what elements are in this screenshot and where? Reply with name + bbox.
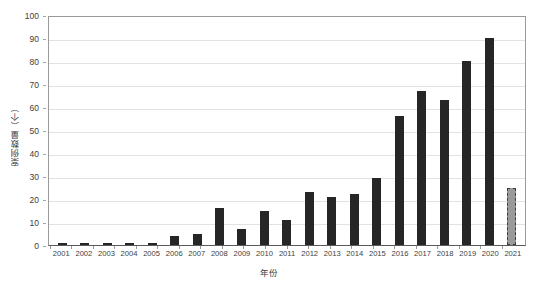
y-tick-label: 90: [30, 34, 39, 44]
x-tick-label: 2019: [456, 249, 479, 263]
bar[interactable]: [462, 61, 471, 245]
x-tick-label: 2020: [479, 249, 502, 263]
x-axis-tick-labels: 2001200220032004200520062007200820092010…: [48, 249, 526, 263]
y-tick-label: 60: [30, 103, 39, 113]
bar-slot: [298, 17, 320, 245]
x-tick-label: 2015: [366, 249, 389, 263]
bar[interactable]: [417, 91, 426, 245]
y-tick-label: 30: [30, 172, 39, 182]
x-tick-label: 2010: [253, 249, 276, 263]
y-tick-mark: [43, 85, 46, 86]
y-tick-label: 40: [30, 149, 39, 159]
y-tick-label: 0: [34, 241, 39, 251]
y-tick-mark: [43, 246, 46, 247]
x-tick-label: 2012: [298, 249, 321, 263]
bar[interactable]: [327, 197, 336, 245]
y-tick-mark: [43, 16, 46, 17]
bar-slot: [388, 17, 410, 245]
bar-slot: [253, 17, 275, 245]
x-tick-label: 2017: [411, 249, 434, 263]
bar[interactable]: [350, 194, 359, 245]
bar-forecast[interactable]: [507, 188, 516, 246]
x-tick-label: 2002: [73, 249, 96, 263]
bar-slot: [231, 17, 253, 245]
y-tick-label: 20: [30, 195, 39, 205]
bar-chart: 案例数量（个） 0102030405060708090100 200120022…: [0, 0, 537, 296]
x-tick-label: 2011: [276, 249, 299, 263]
bar-slot: [500, 17, 522, 245]
bar[interactable]: [148, 243, 157, 245]
bar[interactable]: [260, 211, 269, 246]
bar-series: [49, 17, 525, 245]
bar-slot: [118, 17, 140, 245]
x-tick-label: 2018: [434, 249, 457, 263]
x-tick-label: 2005: [140, 249, 163, 263]
x-tick-label: 2021: [502, 249, 525, 263]
x-tick-label: 2006: [163, 249, 186, 263]
x-tick-label: 2008: [208, 249, 231, 263]
y-tick-mark: [43, 62, 46, 63]
x-tick-label: 2001: [50, 249, 73, 263]
y-tick-label: 100: [25, 11, 39, 21]
x-axis-title: 年份: [0, 266, 537, 278]
bar-slot: [411, 17, 433, 245]
bar-slot: [478, 17, 500, 245]
bar[interactable]: [395, 116, 404, 245]
x-tick-label: 2007: [185, 249, 208, 263]
x-tick-label: 2014: [344, 249, 367, 263]
bar[interactable]: [170, 236, 179, 245]
x-tick-label: 2016: [389, 249, 412, 263]
y-tick-label: 80: [30, 57, 39, 67]
y-tick-label: 50: [30, 126, 39, 136]
bar[interactable]: [125, 243, 134, 245]
bar[interactable]: [440, 100, 449, 245]
y-tick-mark: [43, 39, 46, 40]
x-tick-label: 2003: [95, 249, 118, 263]
bar[interactable]: [237, 229, 246, 245]
y-tick-label: 70: [30, 80, 39, 90]
bar-slot: [321, 17, 343, 245]
bar[interactable]: [485, 38, 494, 245]
bar-slot: [366, 17, 388, 245]
bar[interactable]: [372, 178, 381, 245]
bar-slot: [96, 17, 118, 245]
bar-slot: [343, 17, 365, 245]
bar-slot: [433, 17, 455, 245]
bar[interactable]: [103, 243, 112, 245]
y-tick-mark: [43, 108, 46, 109]
y-tick-mark: [43, 177, 46, 178]
bar[interactable]: [58, 243, 67, 245]
x-tick-label: 2013: [321, 249, 344, 263]
bar-slot: [455, 17, 477, 245]
bar-slot: [163, 17, 185, 245]
bar[interactable]: [215, 208, 224, 245]
bar[interactable]: [305, 192, 314, 245]
bar-slot: [51, 17, 73, 245]
bar-slot: [73, 17, 95, 245]
bar-slot: [186, 17, 208, 245]
y-axis-title: 案例数量（个）: [9, 60, 23, 210]
y-tick-mark: [43, 131, 46, 132]
bar[interactable]: [282, 220, 291, 245]
bar-slot: [276, 17, 298, 245]
y-tick-label: 10: [30, 218, 39, 228]
bar-slot: [208, 17, 230, 245]
bar-slot: [141, 17, 163, 245]
bar[interactable]: [80, 243, 89, 245]
bar[interactable]: [193, 234, 202, 246]
y-tick-mark: [43, 223, 46, 224]
y-tick-mark: [43, 154, 46, 155]
y-tick-mark: [43, 200, 46, 201]
x-tick-label: 2009: [231, 249, 254, 263]
plot-area: [48, 16, 526, 246]
y-axis-tick-labels: 0102030405060708090100: [22, 0, 46, 296]
x-tick-label: 2004: [118, 249, 141, 263]
